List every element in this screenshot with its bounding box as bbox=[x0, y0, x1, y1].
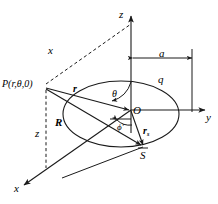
field-point-label-P: P(r,θ,0) bbox=[2, 79, 32, 89]
axis-label-x: x bbox=[14, 183, 19, 194]
axis-label-z-top: z bbox=[119, 9, 123, 20]
x-projection-dashed bbox=[46, 24, 131, 84]
theta-angle-label: θ bbox=[112, 89, 117, 99]
x-axis bbox=[24, 110, 131, 185]
axis-label-y: y bbox=[206, 112, 211, 123]
charged-ring-ellipse bbox=[63, 81, 179, 147]
ring-radius-label-a: a bbox=[159, 48, 165, 59]
rs-vector-label: rs bbox=[143, 126, 149, 136]
R-vector-label: R bbox=[55, 117, 62, 128]
figure-container: z y x O P(r,θ,0) r R rs S θ ϕ' q a x z bbox=[0, 0, 218, 204]
phi-prime: ' bbox=[122, 122, 124, 132]
rs-subscript: s bbox=[147, 130, 149, 137]
diagram-canvas bbox=[0, 0, 218, 204]
charge-label-q: q bbox=[158, 74, 164, 85]
source-point-label-S: S bbox=[140, 150, 146, 161]
phi-angle-label: ϕ' bbox=[117, 123, 124, 132]
r-vector-label: r bbox=[73, 84, 77, 94]
x-projection-label: x bbox=[48, 45, 53, 56]
z-projection-label: z bbox=[35, 128, 39, 139]
s-chord-line bbox=[62, 147, 143, 178]
origin-label-O: O bbox=[133, 105, 141, 116]
